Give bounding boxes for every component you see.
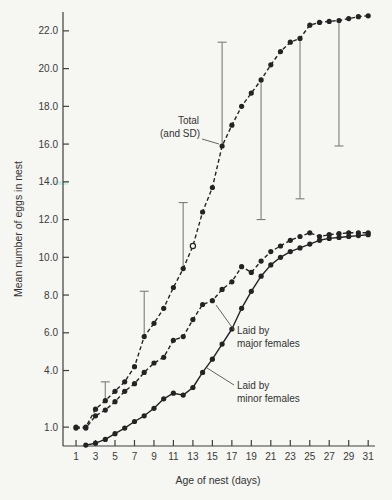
data-point-minor — [151, 406, 156, 411]
annotation-total-line2: (and SD) — [160, 128, 200, 139]
annotation-minor-line1: Laid by — [237, 380, 269, 391]
data-point-minor — [181, 393, 186, 398]
data-point-minor — [122, 426, 127, 431]
x-tick-label: 13 — [187, 451, 199, 462]
annotation-total-line1: Total — [178, 115, 199, 126]
y-tick-label: 8.0 — [44, 290, 58, 301]
figure-page: 1.04.06.08.010.012.014.016.018.020.022.0… — [0, 0, 392, 500]
data-point-total — [249, 91, 254, 96]
data-point-major — [73, 426, 78, 431]
x-axis-title: Age of nest (days) — [175, 474, 260, 486]
data-point-minor — [132, 419, 137, 424]
data-point-major — [259, 259, 264, 264]
data-point-minor — [317, 238, 322, 243]
data-point-minor — [307, 242, 312, 247]
data-point-major — [210, 298, 215, 303]
data-point-total — [103, 398, 108, 403]
data-point-minor — [220, 342, 225, 347]
x-tick-label: 9 — [151, 451, 157, 462]
data-point-total — [93, 407, 98, 412]
data-point-major — [288, 238, 293, 243]
data-point-minor — [356, 233, 361, 238]
data-point-total — [161, 306, 166, 311]
paper-background — [0, 0, 392, 500]
data-point-major — [142, 370, 147, 375]
x-tick-label: 27 — [324, 451, 336, 462]
data-point-major — [181, 334, 186, 339]
data-point-total — [142, 334, 147, 339]
x-tick-label: 19 — [246, 451, 258, 462]
data-point-total — [210, 185, 215, 190]
data-point-minor — [239, 306, 244, 311]
data-point-minor — [210, 357, 215, 362]
open-data-point-total — [190, 243, 195, 248]
y-tick-label: 4.0 — [44, 365, 58, 376]
data-point-minor — [366, 232, 371, 237]
x-tick-label: 25 — [304, 451, 316, 462]
x-tick-label: 31 — [363, 451, 375, 462]
data-point-minor — [259, 274, 264, 279]
data-point-major — [112, 399, 117, 404]
data-point-total — [327, 19, 332, 24]
y-axis-title: Mean number of eggs in nest — [12, 161, 24, 297]
data-point-major — [151, 360, 156, 365]
data-point-major — [83, 426, 88, 431]
data-point-major — [249, 270, 254, 275]
data-point-total — [366, 13, 371, 18]
data-point-total — [171, 285, 176, 290]
data-point-total — [181, 266, 186, 271]
data-point-minor — [112, 431, 117, 436]
y-tick-label: 14.0 — [39, 176, 59, 187]
annotation-minor-line2: minor females — [237, 393, 300, 404]
data-point-total — [259, 77, 264, 82]
x-tick-label: 29 — [343, 451, 355, 462]
data-point-minor — [161, 396, 166, 401]
data-point-minor — [171, 391, 176, 396]
data-point-total — [239, 104, 244, 109]
x-tick-label: 15 — [207, 451, 219, 462]
data-point-major — [229, 279, 234, 284]
chart-svg: 1.04.06.08.010.012.014.016.018.020.022.0… — [0, 0, 392, 500]
data-point-total — [336, 18, 341, 23]
data-point-minor — [268, 262, 273, 267]
data-point-minor — [142, 413, 147, 418]
data-point-total — [122, 379, 127, 384]
data-point-minor — [288, 249, 293, 254]
data-point-major — [239, 264, 244, 269]
data-point-minor — [278, 255, 283, 260]
data-point-total — [346, 16, 351, 21]
data-point-minor — [336, 235, 341, 240]
data-point-total — [307, 23, 312, 28]
annotation-major-line1: Laid by — [237, 325, 269, 336]
data-point-minor — [103, 437, 108, 442]
data-point-minor — [93, 441, 98, 446]
x-tick-label: 7 — [132, 451, 138, 462]
y-tick-label: 18.0 — [39, 101, 59, 112]
data-point-major — [200, 302, 205, 307]
data-point-total — [200, 209, 205, 214]
y-tick-label: 6.0 — [44, 327, 58, 338]
data-point-minor — [249, 289, 254, 294]
data-point-major — [307, 230, 312, 235]
data-point-major — [278, 243, 283, 248]
data-point-total — [317, 20, 322, 25]
x-tick-label: 5 — [112, 451, 118, 462]
data-point-total — [132, 364, 137, 369]
x-tick-label: 3 — [93, 451, 99, 462]
y-tick-label: 16.0 — [39, 139, 59, 150]
data-point-total — [268, 62, 273, 67]
x-tick-label: 21 — [265, 451, 277, 462]
data-point-major — [297, 234, 302, 239]
data-point-major — [103, 408, 108, 413]
data-point-total — [297, 36, 302, 41]
data-point-total — [288, 40, 293, 45]
y-tick-label: 20.0 — [39, 63, 59, 74]
data-point-minor — [200, 370, 205, 375]
data-point-minor — [83, 443, 88, 448]
data-point-total — [229, 123, 234, 128]
data-point-major — [93, 413, 98, 418]
data-point-total — [356, 14, 361, 19]
data-point-minor — [297, 245, 302, 250]
data-point-major — [161, 355, 166, 360]
x-tick-label: 23 — [285, 451, 297, 462]
